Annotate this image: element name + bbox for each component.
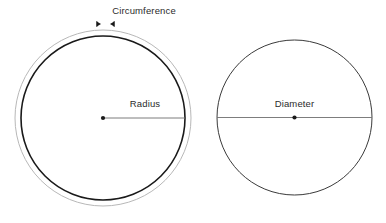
radius-label: Radius xyxy=(130,98,161,109)
circumference-label: Circumference xyxy=(112,5,176,16)
diagram-background xyxy=(0,0,386,223)
left-circle-center-dot xyxy=(101,116,105,120)
diagram-canvas: Circumference Radius Diameter xyxy=(0,0,386,223)
diameter-label: Diameter xyxy=(275,98,315,109)
right-circle-center-dot xyxy=(292,115,296,119)
circle-geometry-diagram: Circumference Radius Diameter xyxy=(0,0,386,223)
